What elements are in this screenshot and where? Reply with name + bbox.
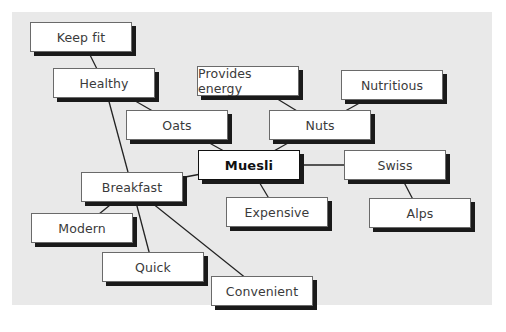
node-breakfast: Breakfast: [81, 172, 183, 202]
node-modern: Modern: [31, 213, 133, 243]
node-oats: Oats: [126, 110, 228, 140]
node-nutritious: Nutritious: [341, 70, 443, 100]
node-keepfit: Keep fit: [30, 22, 132, 52]
node-healthy: Healthy: [53, 68, 155, 98]
node-expensive: Expensive: [226, 197, 328, 227]
node-nuts: Nuts: [269, 110, 371, 140]
node-convenient: Convenient: [211, 276, 313, 306]
node-energy: Provides energy: [197, 66, 299, 96]
node-quick: Quick: [102, 252, 204, 282]
node-alps: Alps: [369, 198, 471, 228]
node-swiss: Swiss: [344, 150, 446, 180]
node-muesli: Muesli: [198, 150, 300, 180]
